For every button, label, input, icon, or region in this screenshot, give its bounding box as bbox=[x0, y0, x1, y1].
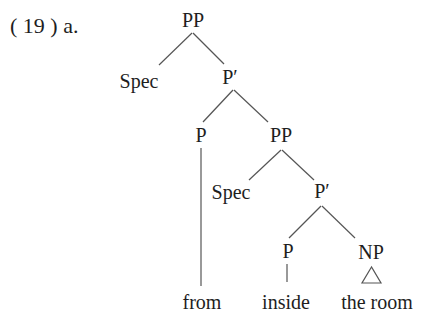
syntax-tree-figure: ( 19 ) a. PP Spec P′ P PP Spec P′ P NP f… bbox=[0, 0, 426, 319]
node-pbar-2: P′ bbox=[314, 180, 330, 202]
node-np: NP bbox=[358, 241, 384, 263]
edge-pbar-pp2 bbox=[234, 90, 268, 122]
node-p-1: P bbox=[195, 124, 206, 146]
edge-pp-spec bbox=[159, 33, 192, 65]
node-p-2: P bbox=[282, 240, 293, 262]
node-pbar-1: P′ bbox=[222, 66, 238, 88]
node-spec-2: Spec bbox=[212, 181, 251, 204]
leaf-from: from bbox=[183, 291, 222, 313]
edge-pp2-spec2 bbox=[249, 150, 281, 180]
edge-pbar2-np bbox=[322, 206, 355, 238]
leaf-inside: inside bbox=[262, 291, 310, 313]
node-spec-1: Spec bbox=[120, 70, 159, 93]
edge-pbar-p bbox=[203, 90, 233, 122]
triangle-np-icon bbox=[362, 267, 381, 283]
node-pp-2: PP bbox=[270, 124, 292, 146]
example-label: ( 19 ) a. bbox=[10, 13, 78, 38]
edge-pp2-pbar2 bbox=[282, 150, 314, 180]
node-pp-root: PP bbox=[182, 9, 204, 31]
edge-pbar2-p2 bbox=[289, 206, 321, 238]
tree-svg: ( 19 ) a. PP Spec P′ P PP Spec P′ P NP f… bbox=[0, 0, 426, 319]
leaf-the-room: the room bbox=[341, 291, 413, 313]
edge-pp-pbar bbox=[193, 33, 224, 64]
